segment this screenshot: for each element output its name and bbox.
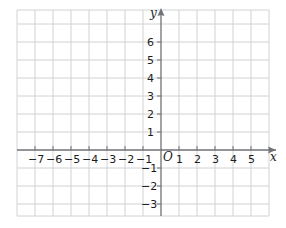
y-axis-label: y (150, 8, 157, 19)
x-tick-label-3: 3 (212, 154, 219, 165)
grid-plot-svg (0, 0, 286, 228)
y-tick-label-4: 4 (147, 73, 154, 84)
x-tick-label--4: −4 (82, 154, 98, 165)
x-tick-label--2: −2 (118, 154, 134, 165)
y-tick-label--2: −2 (141, 181, 157, 192)
y-tick-label-3: 3 (147, 91, 154, 102)
x-tick-label--7: −7 (28, 154, 44, 165)
y-tick-label-6: 6 (147, 37, 154, 48)
x-tick-label-4: 4 (230, 154, 237, 165)
x-tick-label-1: 1 (176, 154, 183, 165)
x-axis-label: x (270, 152, 277, 163)
x-tick-label--3: −3 (100, 154, 116, 165)
x-tick-label--5: −5 (64, 154, 80, 165)
y-tick-label--3: −3 (141, 199, 157, 210)
y-tick-label-1: 1 (147, 127, 154, 138)
origin-label: O (163, 152, 173, 163)
y-axis (158, 8, 165, 216)
y-tick-label-2: 2 (147, 109, 154, 120)
x-tick-label-5: 5 (248, 154, 255, 165)
y-tick-label-5: 5 (147, 55, 154, 66)
x-tick-label--6: −6 (46, 154, 62, 165)
coordinate-plane-figure: −7 −6 −5 −4 −3 −2 −1 1 2 3 4 5 6 5 4 3 2… (0, 0, 286, 228)
x-tick-label-2: 2 (194, 154, 201, 165)
y-tick-label--1: −1 (141, 163, 157, 174)
